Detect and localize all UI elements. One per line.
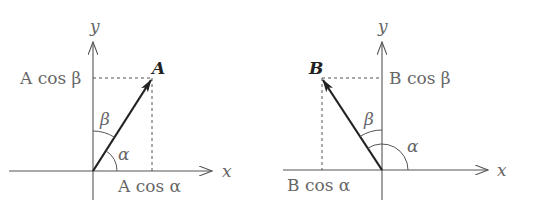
right-proj-y-label: B cos β: [389, 68, 451, 88]
left-y-label: y: [89, 16, 100, 36]
left-vector-label: A: [150, 58, 165, 78]
right-panel: y x B β α B cos β B cos α: [283, 16, 507, 200]
right-x-label: x: [497, 160, 507, 180]
right-beta-arc: [360, 130, 382, 137]
left-beta-label: β: [99, 109, 110, 129]
left-proj-y-label: A cos β: [19, 68, 81, 88]
right-alpha-label: α: [407, 136, 419, 156]
left-beta-arc: [93, 131, 115, 137]
right-proj-x-label: B cos α: [287, 175, 351, 195]
right-beta-label: β: [363, 109, 374, 129]
right-y-label: y: [377, 16, 388, 36]
left-x-label: x: [222, 161, 232, 181]
left-alpha-label: α: [118, 144, 130, 164]
left-panel: y x A β α A cos β A cos α: [9, 16, 232, 200]
left-proj-x-label: A cos α: [117, 176, 182, 196]
direction-cosines-diagram: y x A β α A cos β A cos α y x B β α B co…: [0, 0, 534, 209]
left-alpha-arc: [106, 151, 117, 171]
right-vector-label: B: [308, 58, 323, 78]
